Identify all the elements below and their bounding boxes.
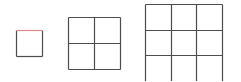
grids-container — [17, 5, 223, 82]
grid-diagram — [0, 0, 241, 81]
grid-1x1 — [17, 31, 43, 57]
grid-3x3 — [146, 5, 223, 82]
grid-2x2 — [69, 18, 121, 70]
